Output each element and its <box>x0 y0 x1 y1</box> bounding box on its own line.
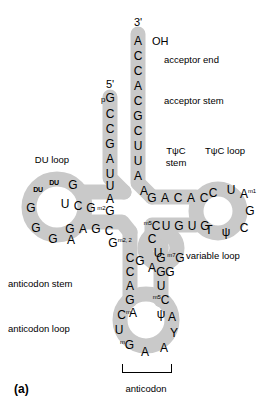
base-anticodon-stem-left-4: G <box>125 294 134 306</box>
base-tpsic-loop-1: C <box>209 187 218 199</box>
three-prime-label: 3' <box>134 17 142 28</box>
anticodon-label: anticodon <box>125 383 166 394</box>
base-du-stem-upper-2: U <box>61 198 70 210</box>
base-tpsic-stem-lower-3: G <box>174 220 183 232</box>
du-loop-label: DU loop <box>35 154 69 165</box>
base-acceptor-5p-4: G <box>105 138 114 150</box>
base-acceptor-3p-6: G <box>133 110 142 122</box>
base-du-loop-4: G <box>26 202 35 214</box>
base-acceptor-3p-10: A <box>134 170 142 182</box>
base-acceptor-3p-2: C <box>134 50 143 62</box>
base-acceptor-3p-9: U <box>134 155 143 167</box>
base-du-loop-3: G <box>68 179 77 191</box>
acceptor-end-label: acceptor end <box>164 54 219 65</box>
base-tpsic-stem-lower-2: U <box>162 220 171 232</box>
base-du-loop-7: A <box>67 234 75 246</box>
base-anticodon-stem-right-2: G <box>156 266 165 278</box>
base-acceptor-5p-5: A <box>106 153 114 165</box>
base-tpsic-stem-lower-m5c: m5C <box>144 220 161 232</box>
base-anticodon-loop-mg: mG <box>120 339 134 351</box>
base-acceptor-5p-1: pG <box>101 92 115 106</box>
base-du-stem-lower-3: G <box>91 223 100 235</box>
base-acceptor-3p-8: U <box>134 140 143 152</box>
base-du-stem-lower-m22g: Gm2, 2 <box>108 237 131 249</box>
base-acceptor-3p-3: C <box>134 65 143 77</box>
base-anticodon-loop-u: U <box>115 324 124 336</box>
base-variable-loop-5: A <box>148 262 156 274</box>
base-tpsic-stem-upper-2: A <box>161 192 169 204</box>
base-du-loop-2: DU <box>49 177 59 189</box>
trna-cloverleaf-figure: 3' 5' OH acceptor end acceptor stem DU l… <box>0 0 269 418</box>
base-anticodon-stem-right-psi: ψ <box>157 308 166 320</box>
panel-label: (a) <box>14 382 29 396</box>
base-anticodon-stem-left-1: C <box>126 252 135 264</box>
hydroxyl-label: OH <box>152 36 169 47</box>
base-acceptor-3p-5: C <box>134 95 143 107</box>
base-anticodon-loop-y: Y <box>170 327 178 339</box>
base-variable-loop-1: C <box>148 233 157 245</box>
base-variable-loop-6: G <box>135 255 144 267</box>
base-du-loop-6: G <box>48 233 57 245</box>
base-acceptor-3p-4: A <box>134 80 142 92</box>
base-du-stem-upper-4: G <box>86 202 95 214</box>
base-tpsic-loop-psi: ψ <box>222 226 231 238</box>
base-acceptor-3p-1: A <box>134 35 142 47</box>
base-anticodon-stem-left-2: C <box>126 266 135 278</box>
base-tpsic-stem-upper-1: G <box>147 192 156 204</box>
base-acceptor-5p-3: C <box>106 123 115 135</box>
base-tpsic-loop-2: U <box>227 184 236 196</box>
tpsic-stem-label-line1: TψC <box>166 145 185 156</box>
base-tpsic-loop-m1a: Am1 <box>240 188 256 200</box>
anticodon-stem-label: anticodon stem <box>8 278 72 289</box>
base-anticodon-stem-right-m5c: m5C <box>153 294 170 306</box>
acceptor-stem-label: acceptor stem <box>164 95 224 106</box>
base-anticodon-loop-a2: A <box>160 342 168 354</box>
anticodon-loop-label: anticodon loop <box>8 323 70 334</box>
anticodon-bracket <box>122 364 172 373</box>
base-anticodon-stem-right-1: G <box>156 252 165 264</box>
base-du-loop-5: G <box>31 222 40 234</box>
five-prime-label: 5' <box>106 79 114 90</box>
base-du-stem-upper-m2g: m2G <box>97 205 114 217</box>
base-tpsic-loop-5: C <box>240 222 249 234</box>
base-variable-loop-m7g: m7G <box>167 252 184 264</box>
base-anticodon-loop-a1: A <box>141 346 149 358</box>
tpsic-loop-label: TψC loop <box>205 145 245 156</box>
tpsic-stem-label-line2: stem <box>166 157 187 168</box>
base-du-loop-1: DU <box>33 184 43 196</box>
base-tpsic-loop-t: T <box>205 224 212 236</box>
base-variable-loop-4: G <box>165 266 174 278</box>
base-du-stem-lower-2: A <box>79 223 87 235</box>
base-du-stem-upper-3: C <box>74 200 83 212</box>
base-anticodon-loop-cm: Cm <box>117 309 130 321</box>
base-tpsic-stem-upper-4: A <box>187 192 195 204</box>
base-tpsic-stem-upper-3: C <box>174 192 183 204</box>
base-tpsic-stem-lower-4: U <box>188 220 197 232</box>
base-anticodon-loop-a3: A <box>168 311 176 323</box>
base-anticodon-stem-left-3: A <box>126 280 134 292</box>
base-acceptor-5p-2: C <box>106 108 115 120</box>
base-acceptor-3p-7: C <box>134 125 143 137</box>
base-tpsic-stem-upper-5: C <box>200 192 209 204</box>
base-tpsic-loop-4: G <box>245 205 254 217</box>
base-anticodon-stem-right-3: U <box>157 280 166 292</box>
base-acceptor-5p-7: U <box>106 180 115 192</box>
variable-loop-label: variable loop <box>186 250 240 261</box>
